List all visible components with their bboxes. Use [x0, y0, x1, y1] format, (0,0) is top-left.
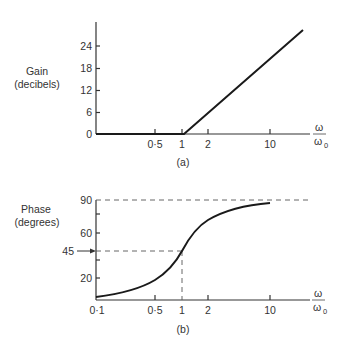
- phase-axis-title: Phase: [21, 203, 51, 215]
- phase-x-axis-label: ω ω 0: [312, 287, 327, 316]
- gain-tick-6: 6: [86, 106, 92, 118]
- phase-y-ticks: 90 60 20: [80, 194, 100, 284]
- gain-tick-24: 24: [80, 40, 92, 52]
- bode-plot-figure: Gain (decibels) 0 6 12 18 24 0·5 1 2 10: [0, 0, 347, 349]
- arrow-icon: [90, 249, 96, 254]
- gain-curve: [96, 30, 303, 134]
- gain-x-ticks: 0·5 1 2 10: [147, 129, 276, 150]
- svg-text:ω: ω: [314, 135, 322, 147]
- gain-xtick-1: 1: [179, 138, 185, 150]
- svg-text:ω: ω: [313, 301, 321, 313]
- phase-45-label: 45: [62, 245, 74, 257]
- gain-axis-unit: (decibels): [14, 78, 60, 90]
- gain-x-axis-label: ω ω 0: [313, 121, 328, 150]
- phase-tick-60: 60: [80, 227, 92, 239]
- phase-xtick-0-5: 0·5: [147, 304, 162, 316]
- gain-xtick-10: 10: [264, 138, 276, 150]
- svg-text:ω: ω: [314, 287, 322, 299]
- phase-plot: Phase (degrees) 90 60 20 45: [15, 194, 328, 335]
- phase-axis-unit: (degrees): [15, 216, 60, 228]
- gain-xtick-0-5: 0·5: [147, 138, 162, 150]
- svg-text:0: 0: [324, 141, 328, 150]
- phase-x-ticks: 0·1 0·5 1 2 10: [89, 295, 276, 316]
- phase-tick-90: 90: [80, 194, 92, 206]
- phase-xtick-2: 2: [205, 304, 211, 316]
- gain-axis-title: Gain: [26, 65, 48, 77]
- gain-plot: Gain (decibels) 0 6 12 18 24 0·5 1 2 10: [14, 22, 328, 168]
- gain-xtick-2: 2: [205, 138, 211, 150]
- phase-curve: [96, 203, 270, 297]
- phase-xtick-0-1: 0·1: [89, 304, 104, 316]
- gain-tick-18: 18: [80, 62, 92, 74]
- phase-xtick-10: 10: [264, 304, 276, 316]
- phase-45-annotation: 45: [62, 245, 96, 257]
- svg-text:ω: ω: [315, 121, 323, 133]
- phase-xtick-1: 1: [179, 304, 185, 316]
- gain-tick-0: 0: [86, 128, 92, 140]
- phase-tick-20: 20: [80, 272, 92, 284]
- caption-b: (b): [177, 323, 190, 335]
- gain-tick-12: 12: [80, 84, 92, 96]
- gain-y-ticks: 0 6 12 18 24: [80, 40, 100, 140]
- svg-text:0: 0: [323, 307, 327, 316]
- caption-a: (a): [177, 156, 190, 168]
